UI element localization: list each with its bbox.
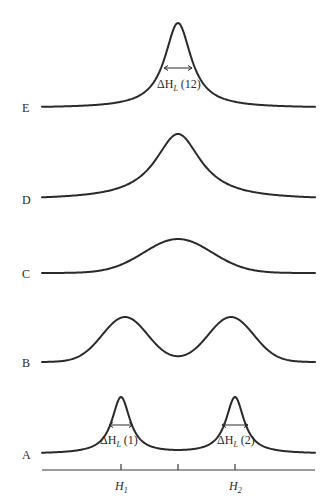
linewidth-label-2: ΔHL (2) xyxy=(217,434,255,446)
curve-c xyxy=(42,239,315,273)
axis-label-h1: H1 xyxy=(115,480,128,492)
curve-label-e: E xyxy=(22,102,29,114)
curve-label-c: C xyxy=(22,268,30,280)
curve-label-d: D xyxy=(22,194,31,206)
curve-d xyxy=(42,134,315,197)
axis-label-h2: H2 xyxy=(229,480,242,492)
lineshape-diagram xyxy=(0,0,335,503)
curve-a xyxy=(42,397,315,453)
linewidth-label-1: ΔHL (1) xyxy=(100,434,138,446)
curve-b xyxy=(42,317,315,362)
axis-ticks xyxy=(121,464,235,470)
linewidth-label-12: ΔHL (12) xyxy=(157,78,201,90)
curve-label-b: B xyxy=(22,357,30,369)
linewidth-arrows xyxy=(109,66,248,428)
curve-e xyxy=(42,23,315,107)
curve-label-a: A xyxy=(22,449,31,461)
